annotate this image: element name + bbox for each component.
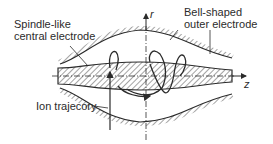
central-electrode-label: Spindle-like central electrode bbox=[14, 18, 95, 42]
outer-electrode-label-line1: Bell-shaped bbox=[184, 6, 257, 18]
outer-electrode-label-line2: outer electrode bbox=[184, 18, 257, 30]
r-axis-label: r bbox=[150, 8, 154, 20]
central-electrode-label-line2: central electrode bbox=[14, 30, 95, 42]
outer-electrode-label: Bell-shaped outer electrode bbox=[184, 6, 257, 30]
central-electrode-label-line1: Spindle-like bbox=[14, 18, 95, 30]
z-axis-label: z bbox=[244, 78, 250, 90]
ion-trajectory-label: Ion trajecory bbox=[36, 100, 97, 112]
orbitrap-diagram: Spindle-like central electrode Bell-shap… bbox=[0, 0, 273, 144]
